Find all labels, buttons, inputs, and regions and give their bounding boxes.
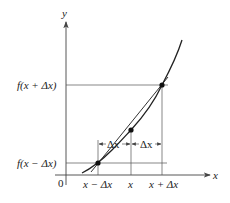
center-x-tick-label: x (127, 178, 133, 190)
point-x-minus-dx (95, 160, 100, 165)
derivative-diagram: y x 0 f(x + Δx) f(x − Δx) x − Δx x x + Δ… (0, 0, 230, 203)
upper-y-tick-label: f(x + Δx) (17, 79, 57, 92)
point-x (128, 127, 133, 132)
right-interval-label: Δx (140, 138, 153, 150)
x-axis-label: x (212, 169, 218, 181)
point-x-plus-dx (159, 82, 164, 87)
function-curve (82, 40, 182, 173)
left-x-tick-label: x − Δx (82, 178, 112, 190)
lower-y-tick-label: f(x − Δx) (17, 157, 57, 170)
origin-label: 0 (58, 177, 64, 189)
secant-line (91, 77, 168, 172)
right-x-tick-label: x + Δx (148, 178, 178, 190)
y-axis-label: y (61, 7, 67, 19)
